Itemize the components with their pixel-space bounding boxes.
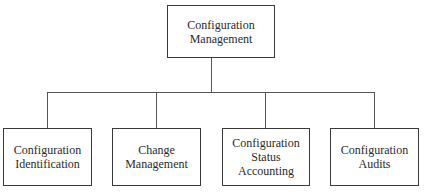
node-label: Configuration Audits	[341, 143, 408, 171]
child-connector-4	[374, 92, 375, 129]
child-connector-2	[156, 92, 157, 129]
node-change-management: Change Management	[112, 128, 201, 186]
node-configuration-status-accounting: Configuration Status Accounting	[222, 128, 310, 186]
node-label: Configuration Management	[187, 18, 254, 46]
root-connector	[211, 57, 212, 93]
child-connector-1	[47, 92, 48, 129]
horizontal-connector	[47, 92, 375, 93]
node-label: Configuration Status Accounting	[232, 136, 299, 178]
node-configuration-identification: Configuration Identification	[3, 128, 92, 186]
node-configuration-management: Configuration Management	[167, 5, 275, 58]
node-label: Configuration Identification	[14, 143, 81, 171]
node-configuration-audits: Configuration Audits	[330, 128, 419, 186]
node-label: Change Management	[125, 143, 188, 171]
child-connector-3	[265, 92, 266, 129]
